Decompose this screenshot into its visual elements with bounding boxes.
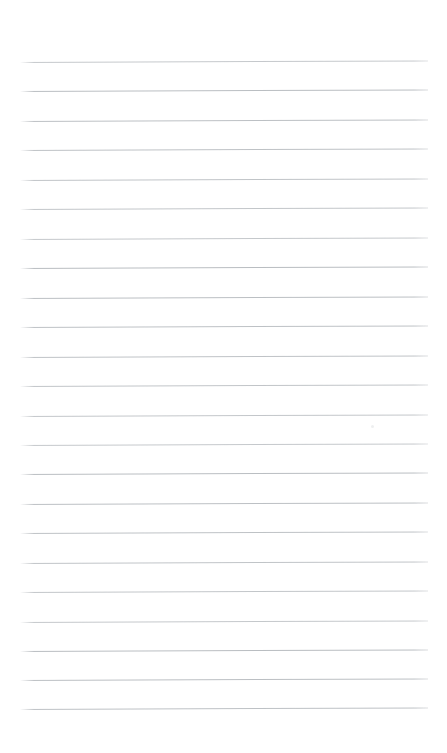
lined-paper-page	[0, 0, 447, 753]
page-body-text	[0, 0, 447, 753]
